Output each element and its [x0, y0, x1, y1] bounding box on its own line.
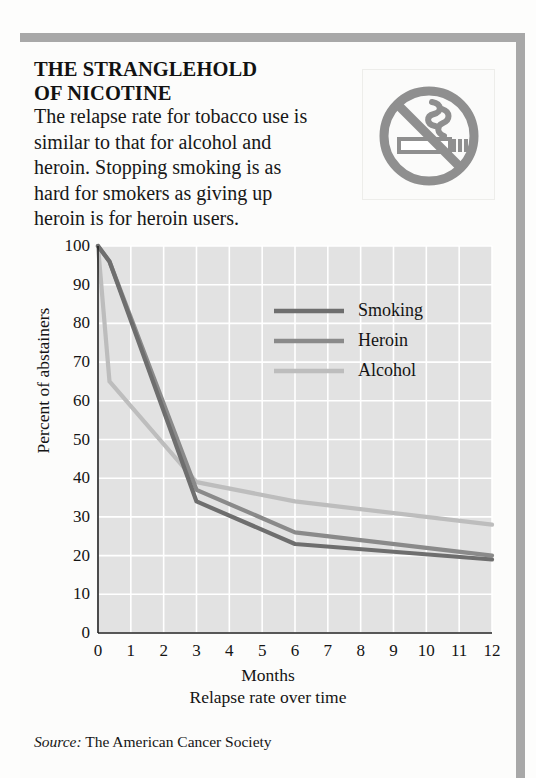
- x-tick-label: 1: [117, 641, 145, 661]
- y-tick-label: 60: [42, 391, 90, 411]
- source-note: Source: The American Cancer Society: [34, 733, 272, 751]
- deck-text: The relapse rate for tobacco use is simi…: [34, 104, 352, 232]
- y-tick-label: 90: [42, 275, 90, 295]
- x-tick-label: 8: [347, 641, 375, 661]
- x-tick-label: 4: [215, 641, 243, 661]
- deck-line-2: similar to that for alcohol and: [34, 130, 352, 156]
- deck-line-3: heroin. Stopping smoking is as: [34, 155, 352, 181]
- y-tick-label: 50: [42, 430, 90, 450]
- x-tick-label: 5: [248, 641, 276, 661]
- x-tick-label: 3: [183, 641, 211, 661]
- deck-line-5: heroin is for heroin users.: [34, 206, 352, 232]
- y-tick-label: 80: [42, 313, 90, 333]
- y-tick-label: 0: [42, 623, 90, 643]
- top-rule: [20, 33, 525, 42]
- x-tick-label: 2: [150, 641, 178, 661]
- y-axis-label: Percent of abstainers: [33, 276, 54, 486]
- deck-line-1: The relapse rate for tobacco use is: [34, 104, 352, 130]
- deck-line-4: hard for smokers as giving up: [34, 181, 352, 207]
- source-prefix: Source:: [34, 733, 82, 750]
- x-tick-label: 12: [478, 641, 506, 661]
- x-axis-label: Months: [0, 665, 536, 686]
- x-tick-label: 0: [84, 641, 112, 661]
- x-tick-label: 11: [445, 641, 473, 661]
- no-smoking-badge: [362, 69, 495, 200]
- y-tick-label: 20: [42, 546, 90, 566]
- legend-item-heroin: Heroin: [358, 330, 408, 351]
- y-tick-label: 100: [42, 236, 90, 256]
- chart-subtitle: Relapse rate over time: [0, 687, 536, 708]
- x-tick-label: 6: [281, 641, 309, 661]
- y-tick-label: 30: [42, 507, 90, 527]
- x-tick-label: 10: [412, 641, 440, 661]
- y-tick-label: 10: [42, 584, 90, 604]
- y-tick-label: 70: [42, 352, 90, 372]
- x-tick-label: 9: [380, 641, 408, 661]
- title-line-1: THE STRANGLEHOLD: [34, 58, 257, 80]
- legend-item-alcohol: Alcohol: [358, 360, 416, 381]
- infographic-page: THE STRANGLEHOLD OF NICOTINE The relapse…: [0, 0, 536, 778]
- page-title: THE STRANGLEHOLD OF NICOTINE: [34, 57, 354, 105]
- source-text: The American Cancer Society: [85, 733, 271, 750]
- y-tick-label: 40: [42, 468, 90, 488]
- title-line-2: OF NICOTINE: [34, 81, 354, 105]
- legend-item-smoking: Smoking: [358, 300, 423, 321]
- no-smoking-icon: [372, 79, 486, 193]
- x-tick-label: 7: [314, 641, 342, 661]
